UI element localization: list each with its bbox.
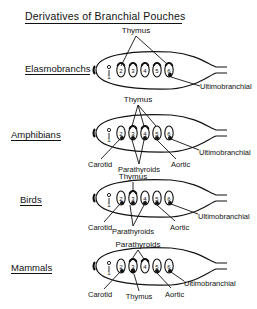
- svg-text:4: 4: [143, 68, 147, 74]
- label-thymus: Thymus: [122, 26, 150, 35]
- label-thymus: Thymus: [119, 172, 147, 181]
- svg-text:3: 3: [131, 68, 135, 74]
- svg-text:5: 5: [155, 68, 159, 74]
- label-aortic: Aortic: [170, 223, 189, 232]
- svg-text:2: 2: [119, 131, 123, 137]
- svg-text:6: 6: [167, 196, 171, 202]
- label-carotid: Carotid: [88, 160, 112, 169]
- label-thymus: Thymus: [124, 95, 152, 104]
- svg-text:5: 5: [155, 131, 159, 137]
- svg-text:6: 6: [167, 131, 171, 137]
- diagram-amphibians: 2 3 4 5 6 Thymus Carotid Parathyroids Ao…: [88, 95, 251, 174]
- svg-text:1: 1: [107, 202, 111, 208]
- svg-text:6: 6: [167, 264, 171, 270]
- diagram-elasmobranchs: 2 3 4 5 6 Thymus Ultimobranchial: [94, 26, 253, 91]
- svg-text:3: 3: [131, 264, 135, 270]
- label-ultimobranchial: Ultimobranchial: [199, 148, 251, 157]
- svg-text:1: 1: [107, 74, 111, 80]
- svg-text:3: 3: [131, 131, 135, 137]
- svg-text:2: 2: [119, 264, 123, 270]
- svg-text:2: 2: [119, 196, 123, 202]
- svg-text:3: 3: [131, 196, 135, 202]
- svg-text:5: 5: [155, 264, 159, 270]
- label-thymus: Thymus: [126, 292, 153, 301]
- label-carotid: Carotid: [88, 290, 112, 299]
- label-parathyroids: Parathyroids: [116, 240, 161, 249]
- svg-text:2: 2: [119, 68, 123, 74]
- svg-text:4: 4: [143, 196, 147, 202]
- label-ultimobranchial: Ultimobranchial: [198, 212, 250, 221]
- svg-text:1: 1: [107, 137, 111, 143]
- svg-text:4: 4: [143, 131, 147, 137]
- svg-text:6: 6: [167, 68, 171, 74]
- svg-text:4: 4: [143, 264, 147, 270]
- pouch-diagrams: 2 3 4 5 6 Thymus Ultimobranchial 2 3 4 5…: [0, 0, 257, 309]
- svg-text:1: 1: [107, 270, 111, 276]
- label-ultimobranchial: Ultimobranchial: [184, 279, 236, 288]
- label-aortic: Aortic: [165, 290, 184, 299]
- label-aortic: Aortic: [171, 160, 190, 169]
- label-ultimobranchial: Ultimobranchial: [200, 82, 252, 91]
- label-parathyroids: Parathyroids: [112, 227, 154, 236]
- svg-text:5: 5: [155, 196, 159, 202]
- label-carotid: Carotid: [88, 223, 112, 232]
- diagram-birds: 2 3 4 5 6 Thymus Carotid Parathyroids Ao…: [88, 172, 250, 236]
